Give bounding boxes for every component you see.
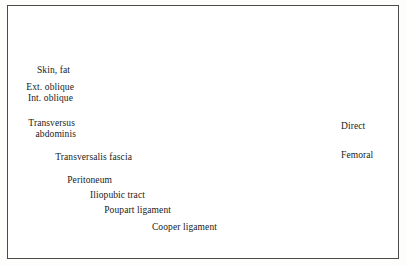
label-abdominis: abdominis (0, 130, 76, 140)
label-int-oblique: Int. oblique (0, 94, 73, 104)
label-peritoneum: Peritoneum (28, 176, 112, 186)
label-transversus: Transversus (0, 119, 75, 129)
label-direct: Direct (341, 122, 365, 132)
label-transversalis-fascia: Transversalis fascia (9, 153, 132, 163)
label-iliopubic-tract: Iliopubic tract (54, 191, 145, 201)
label-skin-fat: Skin, fat (0, 66, 70, 76)
label-femoral: Femoral (341, 151, 373, 161)
label-poupart-ligament: Poupart ligament (62, 206, 171, 216)
anatomical-figure: Skin, fat Ext. oblique Int. oblique Tran… (0, 0, 406, 266)
label-cooper-ligament: Cooper ligament (108, 223, 217, 233)
label-ext-oblique: Ext. oblique (0, 83, 74, 93)
